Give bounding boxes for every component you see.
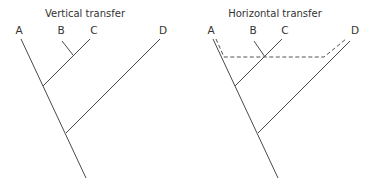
taxon-label-d: D [159, 24, 167, 36]
taxon-label-a: A [15, 24, 23, 36]
diagram: Vertical transfer A B C D Horizontal tra… [0, 0, 368, 186]
branch-c [235, 39, 282, 86]
taxon-label-c: C [90, 24, 97, 36]
panel-title: Vertical transfer [45, 8, 126, 19]
taxon-label-c: C [281, 24, 288, 36]
branch-d [258, 41, 350, 133]
taxon-label-d: D [351, 24, 359, 36]
branch-d [66, 39, 160, 133]
branch-a-trunk [213, 39, 278, 178]
taxon-label-b: B [249, 24, 256, 36]
taxon-label-a: A [207, 24, 215, 36]
taxon-label-b: B [57, 24, 64, 36]
branch-a-trunk [21, 39, 86, 178]
branch-b [254, 41, 265, 57]
panel-title: Horizontal transfer [228, 8, 323, 19]
panel-horizontal-transfer: Horizontal transfer A B C D [207, 8, 359, 178]
horizontal-transfer-path [216, 39, 346, 57]
branch-b [62, 41, 73, 55]
panel-vertical-transfer: Vertical transfer A B C D [15, 8, 167, 178]
